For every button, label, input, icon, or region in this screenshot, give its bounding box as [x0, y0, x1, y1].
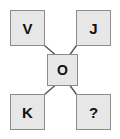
node-bottom-right[interactable]: ?	[76, 94, 111, 130]
node-top-right[interactable]: J	[76, 10, 111, 46]
node-label-top-left: V	[22, 21, 32, 36]
node-label-bottom-left: K	[22, 105, 33, 120]
node-label-center: O	[57, 63, 68, 77]
edge-bottom-left-to-center	[45, 86, 56, 95]
node-diagram: V J O K ?	[0, 0, 120, 139]
node-label-bottom-right: ?	[89, 105, 98, 120]
node-bottom-left[interactable]: K	[10, 94, 45, 130]
node-label-top-right: J	[89, 21, 97, 36]
node-top-left[interactable]: V	[10, 10, 45, 46]
node-center[interactable]: O	[47, 54, 78, 86]
